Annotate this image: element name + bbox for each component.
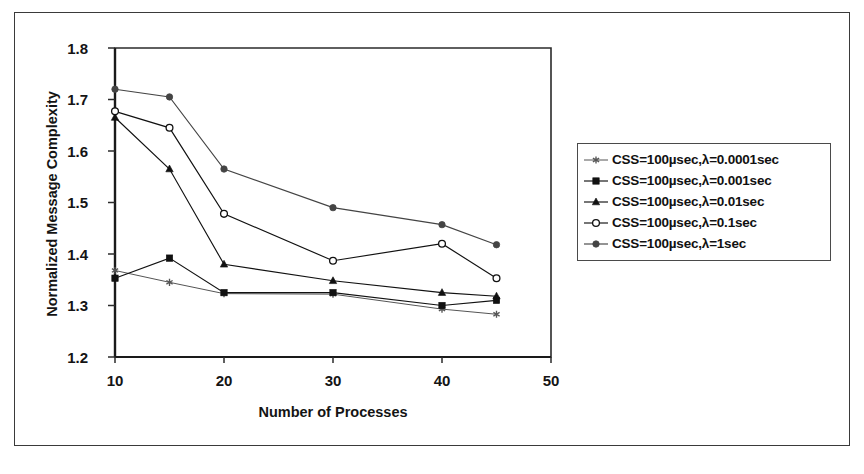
legend-item-label: CSS=100µsec,λ=0.0001sec (612, 152, 779, 167)
data-point-marker (592, 198, 599, 205)
series-line (115, 118, 497, 297)
series-line (115, 111, 497, 278)
data-point-marker (593, 177, 599, 183)
data-point-marker (439, 302, 445, 308)
data-point-marker (112, 108, 119, 115)
x-tick-label-50: 50 (528, 372, 574, 389)
data-point-marker (112, 275, 118, 281)
legend-sample-svg (583, 216, 609, 230)
legend-marker-filled-square-icon (583, 174, 609, 188)
data-point-marker (439, 240, 446, 247)
data-point-marker (166, 94, 172, 100)
legend-marker-filled-circle-icon (583, 237, 609, 251)
legend-sample-svg (583, 195, 609, 209)
legend-item: CSS=100µsec,λ=0.01sec (583, 191, 824, 212)
legend-item: CSS=100µsec,λ=0.0001sec (583, 149, 824, 170)
legend-marker-star-icon (583, 153, 609, 167)
x-tick-label-20: 20 (201, 372, 247, 389)
legend-item-label: CSS=100µsec,λ=0.1sec (612, 215, 757, 230)
data-point-marker (593, 240, 599, 246)
data-point-marker (166, 124, 173, 131)
legend-item-label: CSS=100µsec,λ=0.01sec (612, 194, 764, 209)
legend-item-label: CSS=100µsec,λ=0.001sec (612, 173, 772, 188)
legend-marker-filled-triangle-icon (583, 195, 609, 209)
data-point-marker (330, 289, 336, 295)
data-point-marker (493, 242, 499, 248)
legend-sample-svg (583, 174, 609, 188)
y-axis-title: Normalized Message Complexity (44, 54, 60, 354)
legend-marker-open-circle-icon (583, 216, 609, 230)
chart-legend: CSS=100µsec,λ=0.0001sec CSS=100µsec,λ=0.… (577, 143, 831, 261)
data-point-marker (166, 255, 172, 261)
data-point-marker (221, 210, 228, 217)
x-tick-label-40: 40 (419, 372, 465, 389)
series-line (115, 89, 497, 245)
chart-series (111, 114, 500, 300)
data-point-marker (330, 204, 336, 210)
data-point-marker (330, 257, 337, 264)
data-point-marker (593, 219, 600, 226)
plot-area-wrapper: 1.8 1.7 1.6 1.5 1.4 1.3 1.2 10 20 30 40 … (0, 0, 864, 474)
legend-item: CSS=100µsec,λ=1sec (583, 233, 824, 254)
data-point-marker (221, 289, 227, 295)
data-point-marker (439, 221, 445, 227)
legend-sample-svg (583, 153, 609, 167)
x-tick-label-10: 10 (92, 372, 138, 389)
data-point-marker (221, 166, 227, 172)
series-line (115, 258, 497, 305)
data-point-marker (493, 275, 500, 282)
x-tick-label-30: 30 (310, 372, 356, 389)
plot-frame (115, 48, 551, 357)
x-axis-title: Number of Processes (115, 404, 551, 420)
legend-item: CSS=100µsec,λ=0.1sec (583, 212, 824, 233)
data-point-marker (112, 86, 118, 92)
data-point-marker (220, 260, 227, 267)
legend-sample-svg (583, 237, 609, 251)
figure: 1.8 1.7 1.6 1.5 1.4 1.3 1.2 10 20 30 40 … (0, 0, 864, 474)
legend-item-label: CSS=100µsec,λ=1sec (612, 236, 746, 251)
legend-item: CSS=100µsec,λ=0.001sec (583, 170, 824, 191)
